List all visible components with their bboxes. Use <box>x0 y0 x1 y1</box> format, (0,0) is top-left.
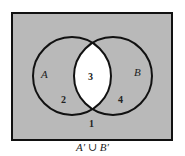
set-label-a: A <box>40 68 48 80</box>
set-label-b: B <box>134 66 141 78</box>
diagram-caption: A′ ∪ B′ <box>0 141 185 154</box>
region-4-label: 4 <box>118 94 123 105</box>
region-2-label: 2 <box>61 94 66 105</box>
region-3-label: 3 <box>88 71 93 82</box>
region-1-label: 1 <box>89 118 94 129</box>
venn-diagram: A B 3 2 4 1 <box>0 0 185 156</box>
